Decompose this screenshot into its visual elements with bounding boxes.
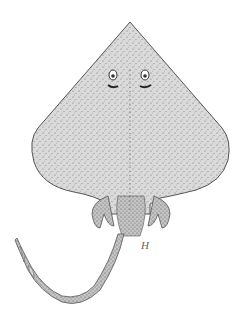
disc bbox=[32, 22, 229, 214]
artist-signature: H bbox=[141, 239, 147, 251]
illustration: H bbox=[0, 0, 246, 323]
body-center bbox=[117, 196, 146, 236]
skate-drawing bbox=[0, 0, 246, 323]
